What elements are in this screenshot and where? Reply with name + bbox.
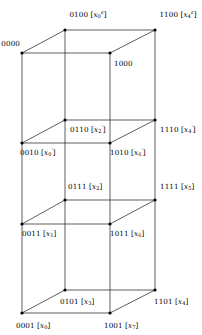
- edge-level-lower-mid: [110, 200, 155, 224]
- vertex-label-1000: 1000: [114, 60, 133, 67]
- edges-group: [22, 30, 155, 313]
- vertex-dot-0011: [20, 222, 23, 225]
- vertex-label-1111: 1111 [x5]: [160, 183, 194, 192]
- edge-level-bottom: [110, 290, 155, 313]
- vertex-label-0001: 0001 [x0]: [16, 322, 50, 331]
- vertex-label-1100: 1100 [x4ε]: [159, 11, 196, 20]
- vertex-dot-1110: [153, 118, 156, 121]
- vertex-dot-1011: [108, 222, 111, 225]
- vertex-dot-1010: [108, 141, 111, 144]
- vertex-label-1101: 1101 [x4]: [154, 298, 188, 307]
- vertex-label-0011: 0011 [x1]: [22, 230, 56, 239]
- vertex-dot-1111: [153, 198, 156, 201]
- edge-level-lower-mid: [22, 200, 65, 224]
- edge-level-top: [110, 30, 155, 53]
- vertex-dot-0010: [20, 141, 23, 144]
- vertex-label-0000: 0000: [1, 40, 20, 47]
- vertex-dot-1001: [108, 311, 111, 314]
- hypercube-figure: 0100 [x0ε]1100 [x4ε]000010000110 [x2′]11…: [0, 0, 202, 335]
- vertex-label-0111: 0111 [x2]: [68, 183, 102, 192]
- hypercube-graph: [0, 0, 202, 335]
- vertices-group: [20, 28, 156, 314]
- edge-level-top: [22, 30, 65, 53]
- vertex-label-0110: 0110 [x2′]: [70, 126, 106, 135]
- vertex-label-0101: 0101 [x3]: [60, 298, 94, 307]
- edge-level-bottom: [22, 290, 65, 313]
- vertex-label-0100: 0100 [x0ε]: [69, 11, 106, 20]
- vertex-label-0010: 0010 [x0′]: [20, 149, 56, 158]
- vertex-dot-0101: [63, 288, 66, 291]
- edge-level-upper-mid: [22, 120, 65, 143]
- vertex-label-1010: 1010 [x6′]: [110, 149, 146, 158]
- vertex-dot-0000: [20, 51, 23, 54]
- vertex-dot-0100: [63, 28, 66, 31]
- vertex-dot-1000: [108, 51, 111, 54]
- vertex-label-1110: 1110 [x4′]: [160, 126, 196, 135]
- vertex-label-1001: 1001 [x7]: [104, 322, 138, 331]
- vertex-dot-1100: [153, 28, 156, 31]
- vertex-dot-0111: [63, 198, 66, 201]
- vertex-dot-1101: [153, 288, 156, 291]
- edge-level-upper-mid: [110, 120, 155, 143]
- vertex-dot-0110: [63, 118, 66, 121]
- vertex-dot-0001: [20, 311, 23, 314]
- vertex-label-1011: 1011 [x6]: [110, 230, 144, 239]
